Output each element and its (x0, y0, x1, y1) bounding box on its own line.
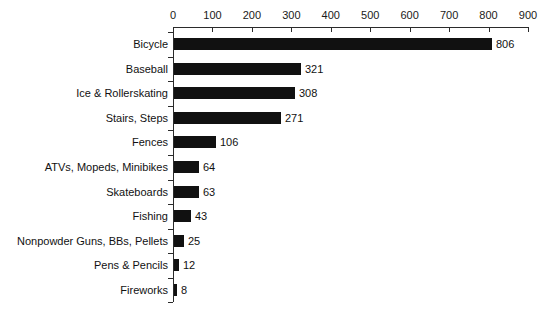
bar-value-label: 12 (183, 259, 195, 272)
bar-value-label: 43 (195, 210, 207, 223)
y-axis-tick-mark (168, 57, 173, 58)
bar-value-label: 106 (220, 136, 238, 149)
bar (174, 161, 199, 173)
bar-row: Bicycle806 (0, 38, 548, 51)
bar-row: Fishing43 (0, 210, 548, 223)
bar (174, 136, 216, 148)
category-label: Fishing (133, 210, 168, 223)
bar (174, 235, 184, 247)
bar (174, 186, 199, 198)
bar-row: ATVs, Mopeds, Minibikes64 (0, 161, 548, 174)
bar-row: Ice & Rollerskating308 (0, 87, 548, 100)
y-axis-tick-mark (168, 106, 173, 107)
category-label: Baseball (126, 63, 168, 76)
bar-row: Baseball321 (0, 63, 548, 76)
category-label: Nonpowder Guns, BBs, Pellets (17, 235, 168, 248)
category-label: Stairs, Steps (106, 112, 168, 125)
category-label: Fences (132, 136, 168, 149)
category-label: ATVs, Mopeds, Minibikes (45, 161, 168, 174)
bar-chart: 0100200300400500600700800900 Bicycle806B… (0, 0, 548, 311)
y-axis-tick-mark (168, 253, 173, 254)
bar-row: Pens & Pencils12 (0, 259, 548, 272)
y-axis-tick-mark (168, 155, 173, 156)
bar-row: Stairs, Steps271 (0, 112, 548, 125)
bar (174, 87, 295, 99)
bar-rows: Bicycle806Baseball321Ice & Rollerskating… (0, 0, 548, 311)
bar-row: Fences106 (0, 136, 548, 149)
category-label: Ice & Rollerskating (76, 87, 168, 100)
bar-row: Skateboards63 (0, 186, 548, 199)
bar (174, 112, 281, 124)
category-label: Bicycle (133, 38, 168, 51)
bar-value-label: 308 (299, 87, 317, 100)
bar (174, 284, 177, 296)
bar-value-label: 8 (181, 284, 187, 297)
category-label: Pens & Pencils (94, 259, 168, 272)
bar (174, 63, 301, 75)
y-axis-tick-mark (168, 204, 173, 205)
y-axis-tick-mark (168, 229, 173, 230)
bar (174, 259, 179, 271)
y-axis-tick-mark (168, 81, 173, 82)
y-axis-tick-mark (168, 302, 173, 303)
category-label: Skateboards (106, 186, 168, 199)
bar-value-label: 321 (305, 63, 323, 76)
y-axis-tick-mark (168, 32, 173, 33)
y-axis-tick-mark (168, 278, 173, 279)
y-axis-tick-mark (168, 130, 173, 131)
bar-value-label: 25 (188, 235, 200, 248)
bar-value-label: 64 (203, 161, 215, 174)
bar-value-label: 271 (285, 112, 303, 125)
bar-row: Fireworks8 (0, 284, 548, 297)
bar (174, 38, 492, 50)
y-axis-tick-mark (168, 180, 173, 181)
bar-value-label: 806 (496, 38, 514, 51)
bar (174, 210, 191, 222)
category-label: Fireworks (120, 284, 168, 297)
bar-value-label: 63 (203, 186, 215, 199)
bar-row: Nonpowder Guns, BBs, Pellets25 (0, 235, 548, 248)
